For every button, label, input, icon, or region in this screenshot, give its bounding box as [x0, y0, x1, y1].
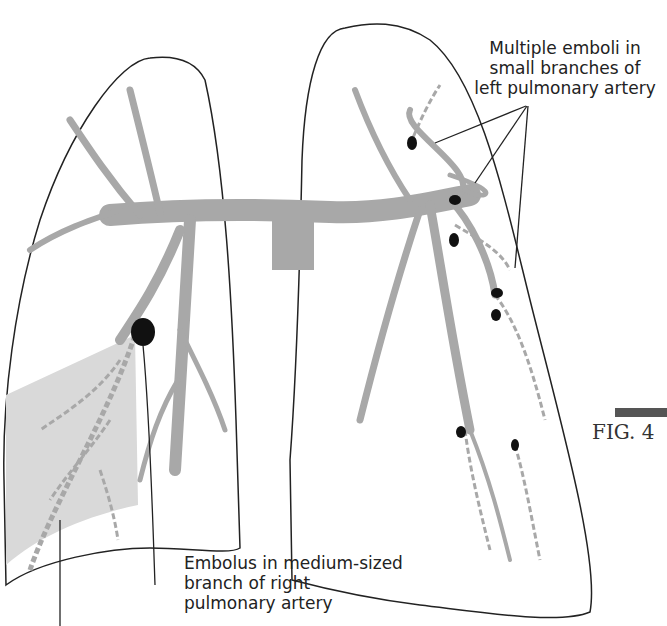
label-line: left pulmonary artery [460, 78, 667, 98]
label-line: branch of right [184, 573, 444, 593]
label-line: pulmonary artery [184, 593, 444, 613]
right-lung-embolus-label: Embolus in medium-sized branch of right … [184, 553, 444, 613]
left-lung-emboli-label: Multiple emboli in small branches of lef… [460, 38, 667, 98]
label-line: Multiple emboli in [460, 38, 667, 58]
figure-bar [615, 408, 667, 417]
left-lung-outline [290, 24, 592, 618]
figure-label: FIG. 4 [592, 420, 654, 444]
label-line: Embolus in medium-sized [184, 553, 444, 573]
label-line: small branches of [460, 58, 667, 78]
